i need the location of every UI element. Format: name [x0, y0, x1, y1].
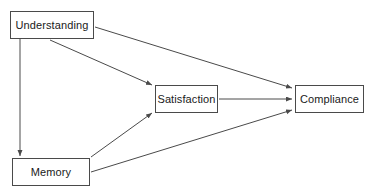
node-compliance-label: Compliance [300, 94, 359, 105]
node-memory: Memory [12, 158, 90, 186]
diagram-canvas: Understanding Satisfaction Compliance Me… [0, 0, 371, 196]
node-memory-label: Memory [31, 167, 71, 178]
edge-memory-to-satisfaction [91, 113, 152, 157]
node-satisfaction: Satisfaction [155, 85, 218, 113]
node-satisfaction-label: Satisfaction [157, 94, 215, 105]
edge-understanding-to-satisfaction [50, 40, 152, 85]
edge-memory-to-compliance [91, 110, 292, 172]
node-understanding-label: Understanding [16, 20, 89, 31]
node-understanding: Understanding [10, 11, 94, 39]
node-compliance: Compliance [295, 85, 364, 113]
edge-understanding-to-compliance [95, 27, 292, 88]
